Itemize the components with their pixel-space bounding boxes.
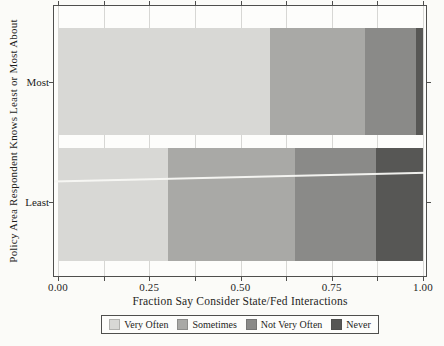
- bar-segment-not-very-often: [295, 148, 375, 261]
- x-tick-top: [241, 1, 242, 5]
- legend-swatch: [331, 319, 342, 330]
- y-tick-right: [427, 202, 431, 203]
- x-tick-top: [58, 1, 59, 5]
- x-tick-label: 1.00: [413, 281, 433, 293]
- bar-segment-sometimes: [168, 148, 296, 261]
- bar-segment-sometimes: [270, 28, 365, 135]
- y-axis-title: Policy Area Respondent Knows Least or Mo…: [7, 19, 19, 262]
- x-tick-label: 0.00: [48, 281, 68, 293]
- bar-most: [58, 28, 423, 135]
- legend-label: Never: [346, 319, 370, 330]
- x-tick-top: [195, 1, 196, 5]
- x-tick-top: [286, 1, 287, 5]
- legend-item-sometimes: Sometimes: [177, 319, 236, 330]
- y-tick-label-most: Most: [2, 76, 49, 88]
- x-tick: [286, 277, 287, 281]
- x-tick-top: [377, 1, 378, 5]
- legend-swatch: [177, 319, 188, 330]
- x-tick: [377, 277, 378, 281]
- legend: Very OftenSometimesNot Very OftenNever: [101, 315, 379, 334]
- legend-item-never: Never: [331, 319, 370, 330]
- x-tick: [195, 277, 196, 281]
- stacked-bar-chart: Policy Area Respondent Knows Least or Mo…: [0, 0, 444, 346]
- legend-swatch: [109, 319, 120, 330]
- x-tick-label: 0.50: [230, 281, 250, 293]
- legend-item-very-often: Very Often: [109, 319, 168, 330]
- x-tick: [104, 277, 105, 281]
- x-tick-top: [423, 1, 424, 5]
- y-tick: [49, 202, 53, 203]
- x-tick-top: [149, 1, 150, 5]
- bar-segment-never: [416, 28, 423, 135]
- bar-least: [58, 148, 423, 261]
- gridline: [423, 6, 424, 276]
- x-tick-label: 0.25: [139, 281, 159, 293]
- y-tick: [49, 82, 53, 83]
- legend-item-not-very-often: Not Very Often: [246, 319, 322, 330]
- legend-label: Sometimes: [192, 319, 236, 330]
- bar-segment-not-very-often: [365, 28, 416, 135]
- x-tick-top: [104, 1, 105, 5]
- x-axis-title: Fraction Say Consider State/Fed Interact…: [53, 295, 427, 307]
- bar-segment-very-often: [58, 148, 168, 261]
- legend-label: Not Very Often: [261, 319, 322, 330]
- legend-swatch: [246, 319, 257, 330]
- plot-panel: [53, 5, 427, 277]
- y-tick-label-least: Least: [2, 196, 49, 208]
- y-tick-right: [427, 82, 431, 83]
- x-tick-label: 0.75: [322, 281, 342, 293]
- x-tick-top: [332, 1, 333, 5]
- bar-segment-never: [376, 148, 423, 261]
- legend-label: Very Often: [124, 319, 168, 330]
- bar-segment-very-often: [58, 28, 270, 135]
- legend-row: Very OftenSometimesNot Very OftenNever: [53, 315, 427, 334]
